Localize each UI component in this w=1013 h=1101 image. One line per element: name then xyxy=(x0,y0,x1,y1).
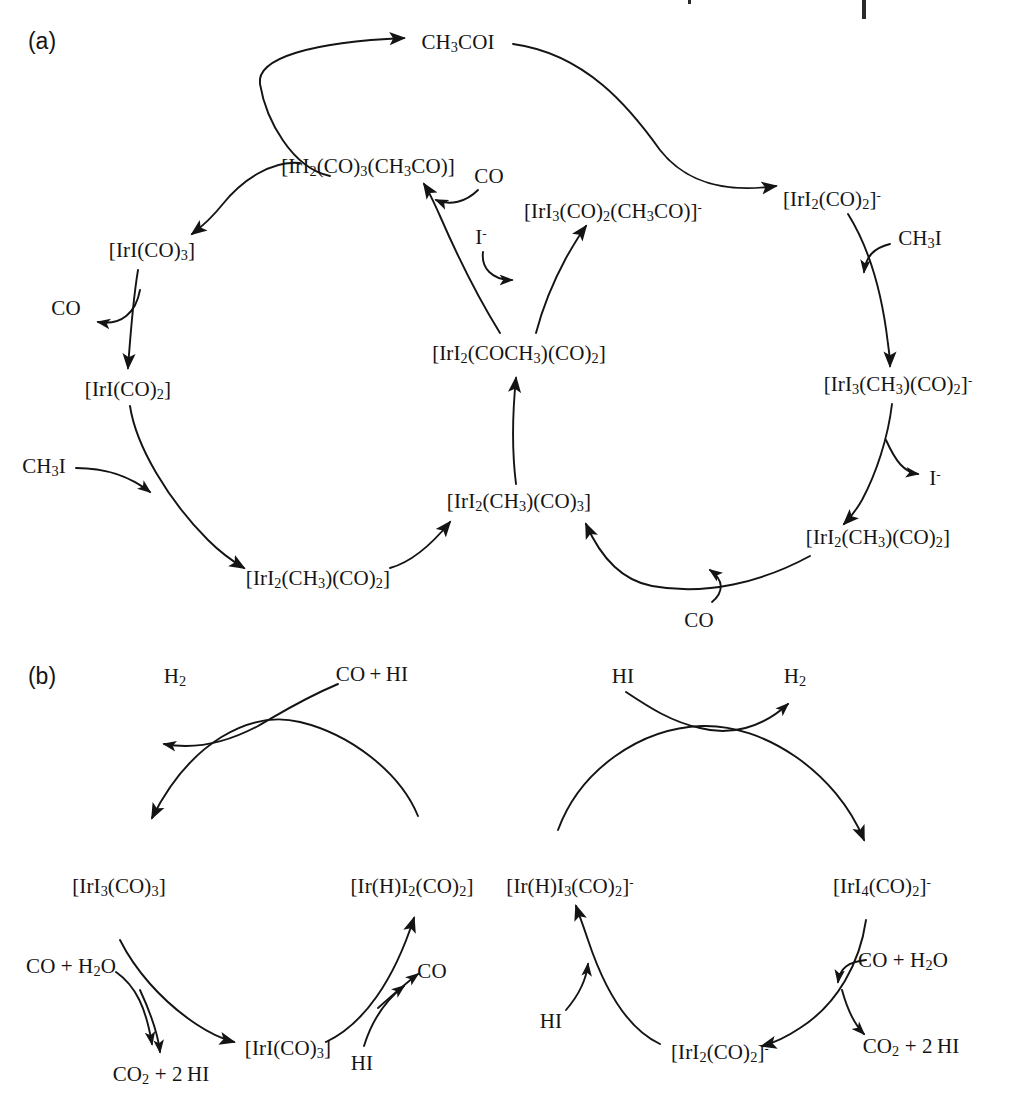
arrow-b-right-hi-in xyxy=(626,692,788,731)
methyl-iodide-left: CH3I xyxy=(22,456,66,477)
arrow-b-left-main-descend xyxy=(152,720,418,818)
anionic-acyl-dicarbonyl: [IrI3(CO)2(CH3CO)]- xyxy=(524,201,702,222)
panel-tag-b: (b) xyxy=(28,663,56,690)
hydrido-diiodo-dicarbonyl: [Ir(H)I2(CO)2] xyxy=(351,876,474,897)
tetraiodo-dicarbonyl: [IrI4(CO)2]- xyxy=(833,876,931,897)
iodide-reagent-center: I- xyxy=(475,227,487,248)
arrow-b-right-tetraiodo-to-diiodo xyxy=(762,920,866,1046)
hydrogen-iodide-b-left: HI xyxy=(351,1053,373,1074)
anionic-dicarbonyl: [IrI2(CO)2]- xyxy=(783,189,881,210)
neutral-acyl-tricarbonyl: [IrI2(CO)3(CH3CO)] xyxy=(281,156,455,177)
acyl-dicarbonyl-hub: [IrI2(COCH3)(CO)2] xyxy=(432,343,606,364)
arrow-b-left-triiodo-to-monoiodo xyxy=(120,940,234,1042)
co-plus-hi-left: CO + HI xyxy=(336,664,408,685)
arrow-b-left-co-out xyxy=(378,974,418,1008)
arrow-dicarbonyl-to-methyl-dicarbonyl xyxy=(130,406,244,568)
triiodo-tricarbonyl: [IrI3(CO)3] xyxy=(72,876,166,897)
arrow-b-left-co-water-in xyxy=(116,972,152,1044)
neutral-iridium-dicarbonyl: [IrI(CO)2] xyxy=(85,379,171,400)
neutral-methyl-dicarbonyl-right: [IrI2(CH3)(CO)2] xyxy=(806,527,950,548)
co-reagent-upper-center: CO xyxy=(474,166,503,187)
arrow-b-left-co-hi-in xyxy=(164,684,338,746)
anionic-methyl-tricarbonyl: [IrI3(CH3)(CO)2]- xyxy=(824,374,973,395)
dihydrogen-product-right: H2 xyxy=(784,666,807,687)
co-reagent-bottom-right: CO xyxy=(684,610,713,631)
arrow-anionic-methyl-to-neutral-methyl xyxy=(844,404,892,524)
neutral-iridium-tricarbonyl: [IrI(CO)3] xyxy=(109,240,195,261)
arrow-iodide-addition-center xyxy=(483,252,512,280)
arrow-b-right-diiodo-to-hydride xyxy=(576,906,660,1044)
hydrogen-iodide-right-top: HI xyxy=(612,666,634,687)
arrow-acetyliodide-to-anionic-dicarbonyl xyxy=(513,44,776,188)
co-released-left: CO xyxy=(51,298,80,319)
arrow-hub-to-neutral-acyl xyxy=(424,184,500,333)
arrow-co-release-left xyxy=(98,290,140,323)
acetyl-iodide-product: CH3COI xyxy=(421,32,494,53)
neutral-methyl-dicarbonyl-left: [IrI2(CH3)(CO)2] xyxy=(246,568,390,589)
arrow-iodide-release-right xyxy=(886,440,918,474)
dihydrogen-product-left: H2 xyxy=(164,666,187,687)
co-plus-water-left: CO + H2O xyxy=(26,956,116,977)
anionic-diiodo-dicarbonyl-b: [IrI2(CO)2]- xyxy=(671,1042,769,1063)
arrow-co-addition-center xyxy=(436,190,478,203)
methyl-iodide-right: CH3I xyxy=(898,228,942,249)
scan-artifact-bar xyxy=(862,0,866,19)
panel-tag-a: (a) xyxy=(28,28,56,55)
co-plus-water-right: CO + H2O xyxy=(858,950,948,971)
arrow-methyl-iodide-addition-right xyxy=(864,244,890,272)
hydrido-triiodo-dicarbonyl: [Ir(H)I3(CO)2]- xyxy=(506,876,633,897)
arrow-b-right-co2-hi-out xyxy=(842,990,864,1034)
arrow-b-right-hi-in-bottom xyxy=(566,964,588,1010)
iridium-tricarbonyl-b: [IrI(CO)3] xyxy=(245,1038,331,1059)
figure-canvas: (a) (b) CH3COI[IrI2(CO)3(CH3CO)]CO[IrI3(… xyxy=(0,0,1013,1101)
hydrogen-iodide-b-right: HI xyxy=(540,1011,562,1032)
carbon-dioxide-plus-hi-right: CO2 + 2 HI xyxy=(863,1036,960,1057)
neutral-methyl-tricarbonyl: [IrI2(CH3)(CO)3] xyxy=(447,491,591,512)
arrow-hub-to-anionic-acyl xyxy=(536,226,586,333)
co-released-b-left: CO xyxy=(417,961,446,982)
arrow-methyl-iodide-addition-left xyxy=(76,468,150,492)
arrow-tricarbonyl-to-dicarbonyl xyxy=(128,270,138,368)
scan-artifact-tick xyxy=(688,0,691,4)
iodide-released-right: I- xyxy=(929,468,941,489)
arrow-b-left-hi-in xyxy=(364,986,404,1046)
reaction-arrow-layer xyxy=(0,0,1013,1101)
arrow-b-left-monoiodo-to-hydride xyxy=(326,918,414,1042)
arrow-methyl-dicarbonyl-to-methyl-tricarbonyl-left xyxy=(390,522,450,568)
arrow-b-left-co2-hi-out xyxy=(140,990,160,1052)
arrow-anionic-dicarbonyl-to-anionic-methyl xyxy=(848,214,890,366)
arrow-neutral-methyl-to-methyl-tricarbonyl xyxy=(586,524,810,589)
arrow-co-addition-bottom-right xyxy=(710,570,721,602)
arrow-methyl-tricarbonyl-to-hub xyxy=(513,378,516,484)
carbon-dioxide-plus-hi-left: CO2 + 2 HI xyxy=(113,1064,210,1085)
arrow-b-right-main-descend xyxy=(558,726,864,840)
